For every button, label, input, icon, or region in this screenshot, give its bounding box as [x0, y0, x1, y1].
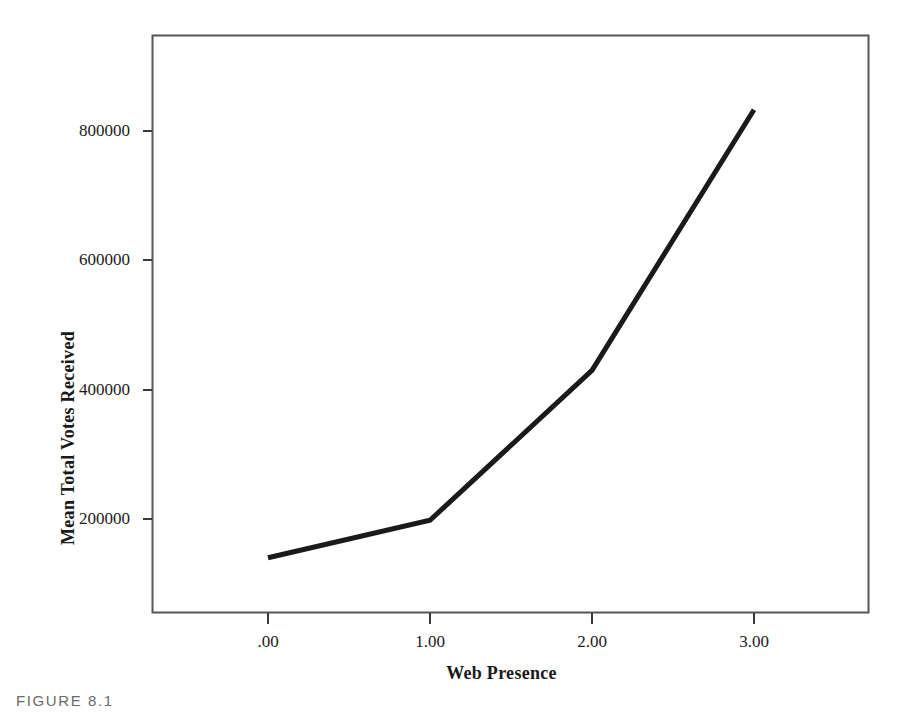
plot-area: 800000 600000 400000 200000 .00 1.00 2.0… [0, 0, 897, 660]
plot-frame [153, 36, 869, 613]
x-tick-label-2: 2.00 [547, 632, 637, 652]
y-tick-label-200000: 200000 [40, 509, 130, 529]
y-axis-title: Mean Total Votes Received [58, 331, 79, 545]
y-axis-ticks [143, 131, 152, 519]
x-tick-label-0: .00 [223, 632, 313, 652]
x-axis-title: Web Presence [0, 663, 897, 684]
figure-caption: FIGURE 8.1 [16, 692, 114, 709]
figure-container: 800000 600000 400000 200000 .00 1.00 2.0… [0, 0, 897, 724]
chart-svg [0, 0, 897, 660]
x-tick-label-3: 3.00 [709, 632, 799, 652]
x-axis-ticks [268, 613, 754, 624]
x-tick-label-1: 1.00 [385, 632, 475, 652]
y-tick-label-400000: 400000 [40, 380, 130, 400]
y-tick-label-800000: 800000 [40, 121, 130, 141]
y-tick-label-600000: 600000 [40, 250, 130, 270]
